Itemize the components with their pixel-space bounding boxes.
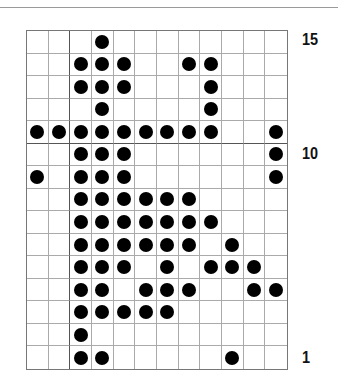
grid-cell-r13-c9: [200, 76, 222, 99]
filled-dot-icon: [95, 260, 109, 274]
grid-cell-r6-c11: [244, 234, 266, 257]
grid-cell-r12-c10: [222, 99, 244, 122]
filled-dot-icon: [139, 192, 153, 206]
grid-cell-r3-c4: [92, 301, 114, 324]
grid-cell-r3-c8: [179, 301, 201, 324]
grid-cell-r7-c5: [114, 211, 136, 234]
grid-cell-r5-c12: [265, 256, 287, 279]
filled-dot-icon: [160, 283, 174, 297]
grid-cell-r14-c5: [114, 54, 136, 77]
filled-dot-icon: [74, 351, 88, 365]
filled-dot-icon: [74, 147, 88, 161]
filled-dot-icon: [139, 283, 153, 297]
filled-dot-icon: [117, 215, 131, 229]
grid-cell-r2-c8: [179, 324, 201, 347]
grid-cell-r4-c11: [244, 279, 266, 302]
filled-dot-icon: [182, 125, 196, 139]
grid-cell-r2-c11: [244, 324, 266, 347]
grid-cell-r1-c10: [222, 346, 244, 369]
grid-cell-r8-c12: [265, 189, 287, 212]
filled-dot-icon: [204, 80, 218, 94]
grid-cell-r11-c8: [179, 121, 201, 144]
grid-cell-r3-c3: [70, 301, 92, 324]
grid-cell-r1-c2: [49, 346, 71, 369]
filled-dot-icon: [225, 351, 239, 365]
grid-cell-r11-c5: [114, 121, 136, 144]
grid-cell-r4-c10: [222, 279, 244, 302]
grid-cell-r1-c5: [114, 346, 136, 369]
filled-dot-icon: [117, 238, 131, 252]
grid-cell-r6-c6: [135, 234, 157, 257]
grid-cell-r12-c11: [244, 99, 266, 122]
filled-dot-icon: [225, 238, 239, 252]
grid-cell-r15-c10: [222, 31, 244, 54]
grid-cell-r3-c10: [222, 301, 244, 324]
filled-dot-icon: [74, 57, 88, 71]
grid-cell-r6-c12: [265, 234, 287, 257]
grid-cell-r5-c4: [92, 256, 114, 279]
filled-dot-icon: [95, 102, 109, 116]
filled-dot-icon: [74, 328, 88, 342]
filled-dot-icon: [74, 260, 88, 274]
row-label-15: 15: [302, 30, 318, 50]
grid-cell-r4-c4: [92, 279, 114, 302]
filled-dot-icon: [52, 125, 66, 139]
filled-dot-icon: [117, 192, 131, 206]
filled-dot-icon: [117, 125, 131, 139]
grid-cell-r5-c1: [27, 256, 49, 279]
filled-dot-icon: [95, 35, 109, 49]
grid-cell-r14-c4: [92, 54, 114, 77]
grid-cell-r8-c3: [70, 189, 92, 212]
grid-cell-r4-c3: [70, 279, 92, 302]
grid-cell-r13-c11: [244, 76, 266, 99]
grid-cell-r5-c5: [114, 256, 136, 279]
filled-dot-icon: [139, 215, 153, 229]
grid-cell-r15-c8: [179, 31, 201, 54]
filled-dot-icon: [204, 215, 218, 229]
grid-cell-r7-c4: [92, 211, 114, 234]
grid-cell-r4-c8: [179, 279, 201, 302]
grid-cell-r8-c10: [222, 189, 244, 212]
grid-cell-r8-c5: [114, 189, 136, 212]
grid-cell-r2-c7: [157, 324, 179, 347]
filled-dot-icon: [182, 192, 196, 206]
filled-dot-icon: [225, 260, 239, 274]
filled-dot-icon: [74, 192, 88, 206]
grid-cell-r10-c6: [135, 144, 157, 167]
filled-dot-icon: [95, 305, 109, 319]
filled-dot-icon: [269, 147, 283, 161]
filled-dot-icon: [160, 305, 174, 319]
grid-cell-r10-c4: [92, 144, 114, 167]
grid-cell-r8-c8: [179, 189, 201, 212]
filled-dot-icon: [182, 215, 196, 229]
grid-cell-r10-c8: [179, 144, 201, 167]
grid-cell-r15-c2: [49, 31, 71, 54]
grid-cell-r5-c9: [200, 256, 222, 279]
grid-cell-r1-c11: [244, 346, 266, 369]
grid-cell-r13-c1: [27, 76, 49, 99]
filled-dot-icon: [74, 305, 88, 319]
grid-cell-r10-c5: [114, 144, 136, 167]
grid-cell-r13-c5: [114, 76, 136, 99]
top-rule: [0, 7, 338, 8]
grid-cell-r15-c11: [244, 31, 266, 54]
filled-dot-icon: [95, 238, 109, 252]
filled-dot-icon: [95, 125, 109, 139]
grid-cell-r2-c3: [70, 324, 92, 347]
filled-dot-icon: [204, 57, 218, 71]
grid-cell-r14-c12: [265, 54, 287, 77]
grid-cell-r12-c6: [135, 99, 157, 122]
grid-cell-r2-c6: [135, 324, 157, 347]
grid-cell-r7-c6: [135, 211, 157, 234]
grid-cell-r6-c3: [70, 234, 92, 257]
grid-cell-r5-c10: [222, 256, 244, 279]
grid-cell-r11-c3: [70, 121, 92, 144]
grid-cell-r2-c9: [200, 324, 222, 347]
grid-cell-r11-c4: [92, 121, 114, 144]
grid-cell-r1-c3: [70, 346, 92, 369]
grid-cell-r5-c7: [157, 256, 179, 279]
filled-dot-icon: [95, 147, 109, 161]
grid-cell-r3-c9: [200, 301, 222, 324]
filled-dot-icon: [269, 283, 283, 297]
filled-dot-icon: [160, 215, 174, 229]
